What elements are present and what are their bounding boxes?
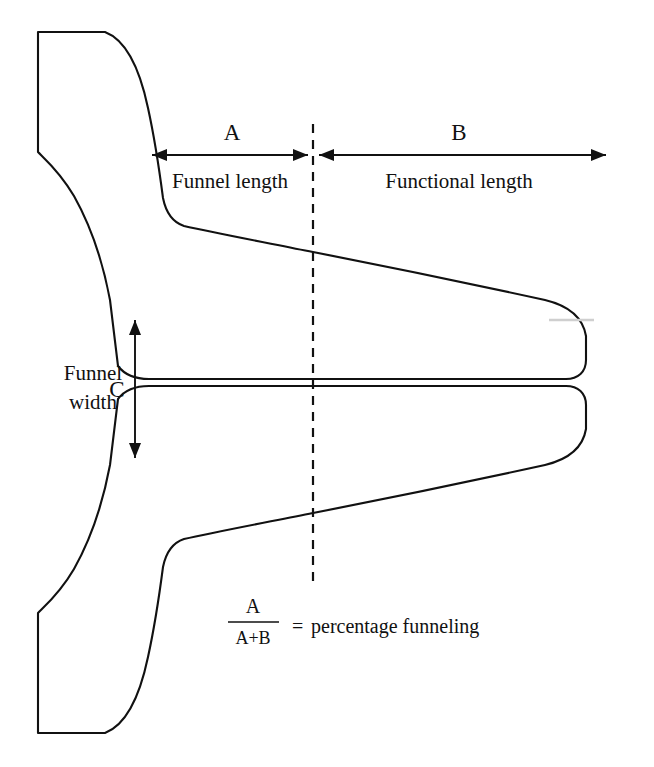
segment-a-arrowhead-right <box>293 149 308 161</box>
segment-a-dimension-arrow <box>152 149 308 161</box>
funnel-length-label: Funnel length <box>172 169 289 193</box>
percentage-funneling-formula: A A+B = percentage funneling <box>228 595 479 648</box>
funneling-diagram-canvas: A B Funnel length Functional length Funn… <box>0 0 654 767</box>
segment-b-dimension-arrow <box>319 149 606 161</box>
segment-b-arrowhead-right <box>591 149 606 161</box>
formula-result-text: percentage funneling <box>311 615 479 638</box>
segment-b-label: B <box>451 120 466 145</box>
functional-length-label: Functional length <box>385 169 533 193</box>
formula-denominator: A+B <box>235 628 270 648</box>
segment-b-arrowhead-left <box>319 149 334 161</box>
segment-a-label: A <box>224 120 241 145</box>
formula-equals-sign: = <box>292 615 303 637</box>
figure-root: A B Funnel length Functional length Funn… <box>0 0 654 767</box>
segment-c-label: C <box>109 377 124 402</box>
formula-numerator: A <box>246 595 261 617</box>
